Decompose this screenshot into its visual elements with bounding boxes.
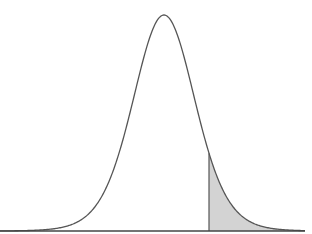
density-curve	[0, 15, 305, 231]
density-chart	[0, 0, 312, 234]
